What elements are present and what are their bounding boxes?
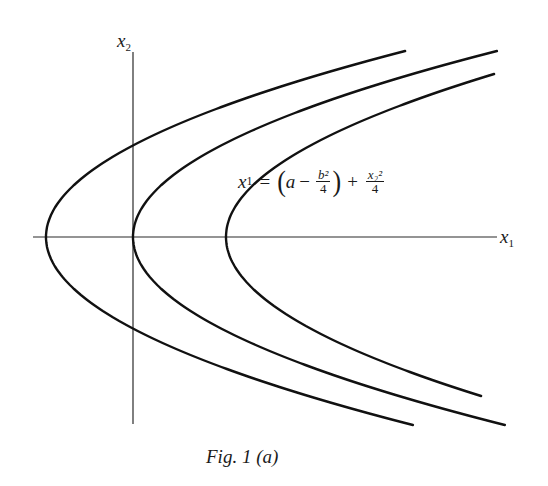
- parabola-curve-origin: [133, 51, 505, 425]
- eq-close-paren: ): [332, 170, 341, 193]
- eq-frac2-num: x₂²: [366, 168, 384, 182]
- equation-annotation: x1 = ( a − b² 4 ) + x₂² 4: [238, 168, 386, 195]
- y-axis-label-sub: 2: [125, 41, 131, 53]
- eq-frac1-num: b²: [316, 168, 330, 182]
- x-axis-label: x1: [500, 226, 514, 249]
- eq-fraction-x2: x₂² 4: [366, 168, 384, 195]
- eq-a: a: [286, 171, 296, 193]
- y-axis-label: x2: [117, 30, 131, 53]
- eq-lhs-var: x: [238, 171, 246, 193]
- eq-frac2-den: 4: [372, 182, 379, 195]
- figure-canvas: [0, 0, 548, 486]
- eq-minus: −: [299, 171, 310, 193]
- eq-fraction-b: b² 4: [316, 168, 330, 195]
- parabola-curve-right: [226, 74, 494, 396]
- eq-frac1-den: 4: [320, 182, 327, 195]
- eq-open-paren: (: [277, 170, 286, 193]
- figure-caption: Fig. 1 (a): [206, 446, 278, 468]
- eq-plus: +: [347, 171, 358, 193]
- parabola-curve-left: [46, 51, 413, 425]
- x-axis-label-sub: 1: [508, 237, 514, 249]
- eq-lhs-sub: 1: [246, 174, 252, 189]
- parabola-curves: [46, 51, 505, 425]
- eq-equals: =: [259, 171, 270, 193]
